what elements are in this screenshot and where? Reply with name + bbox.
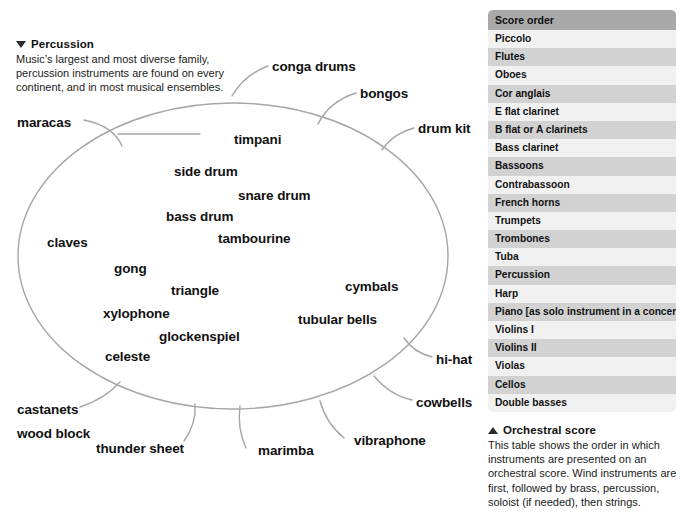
orchestral-score-caption-body: This table shows the order in which inst… [488,438,686,509]
score-order-row: Tuba [488,248,676,266]
percussion-family-diagram: Percussion Music’s largest and most dive… [0,0,482,526]
instrument-label-tubular-bells: tubular bells [298,313,377,327]
instrument-label-cymbals: cymbals [345,280,398,294]
instrument-label-tambourine: tambourine [218,232,291,246]
triangle-down-icon [16,41,26,48]
instrument-label-glockenspiel: glockenspiel [159,330,240,344]
instrument-label-snare-drum: snare drum [238,189,311,203]
instrument-label-hi-hat: hi-hat [436,353,472,367]
instrument-label-xylophone: xylophone [103,307,170,321]
leader-cowbells [374,376,412,400]
instrument-label-gong: gong [114,262,147,276]
percussion-caption-title: Percussion [31,38,94,50]
instrument-label-vibraphone: vibraphone [354,434,426,448]
score-order-row: Harp [488,285,676,303]
instrument-label-drum-kit: drum kit [418,122,470,136]
leader-drum-kit [382,128,414,150]
score-order-row: Violins I [488,321,676,339]
instrument-label-timpani: timpani [234,133,281,147]
leader-bongos [318,93,356,124]
score-order-row: Double basses [488,394,676,412]
leader-thunder-sheet [184,404,195,441]
percussion-caption-body: Music’s largest and most diverse family,… [16,52,238,95]
instrument-label-side-drum: side drum [174,165,238,179]
score-order-row: Bassoons [488,157,676,175]
score-order-row: Violins II [488,339,676,357]
score-order-row: Trumpets [488,212,676,230]
page-root: Percussion Music’s largest and most dive… [0,0,695,526]
score-order-header: Score order [488,10,676,30]
instrument-label-conga-drums: conga drums [272,60,356,74]
instrument-label-claves: claves [47,236,88,250]
leader-castanets [80,382,120,407]
orchestral-score-caption: Orchestral score This table shows the or… [488,424,686,509]
orchestral-score-caption-title: Orchestral score [503,424,596,436]
instrument-label-triangle: triangle [171,284,219,298]
instrument-label-thunder-sheet: thunder sheet [96,442,184,456]
score-order-row: Flutes [488,48,676,66]
triangle-up-icon [488,427,498,434]
score-order-row: Violas [488,357,676,375]
score-order-row: Piccolo [488,30,676,48]
score-order-row: Piano [as solo instrument in a concerto] [488,303,676,321]
score-order-row: Oboes [488,66,676,84]
leader-vibraphone [320,401,344,438]
score-order-row: French horns [488,194,676,212]
percussion-caption-title-row: Percussion [16,38,238,50]
score-order-row: Cor anglais [488,85,676,103]
score-order-row: Cellos [488,376,676,394]
instrument-label-marimba: marimba [258,444,314,458]
instrument-label-maracas: maracas [17,116,71,130]
instrument-label-bongos: bongos [360,87,408,101]
instrument-label-cowbells: cowbells [416,396,472,410]
leader-marimba [239,406,246,448]
instrument-label-wood-block: wood block [17,427,90,441]
score-order-row: E flat clarinet [488,103,676,121]
instrument-label-castanets: castanets [17,403,78,417]
percussion-caption: Percussion Music’s largest and most dive… [16,38,238,95]
score-order-row: B flat or A clarinets [488,121,676,139]
orchestral-score-caption-title-row: Orchestral score [488,424,686,436]
instrument-label-bass-drum: bass drum [166,210,233,224]
score-order-panel: Score order PiccoloFlutesOboesCor anglai… [488,10,676,412]
score-order-row: Bass clarinet [488,139,676,157]
score-order-row: Trombones [488,230,676,248]
leader-hi-hat [404,338,432,357]
instrument-label-celeste: celeste [105,350,150,364]
score-order-rows: PiccoloFlutesOboesCor anglaisE flat clar… [488,30,676,412]
score-order-row: Contrabassoon [488,176,676,194]
score-order-row: Percussion [488,266,676,284]
